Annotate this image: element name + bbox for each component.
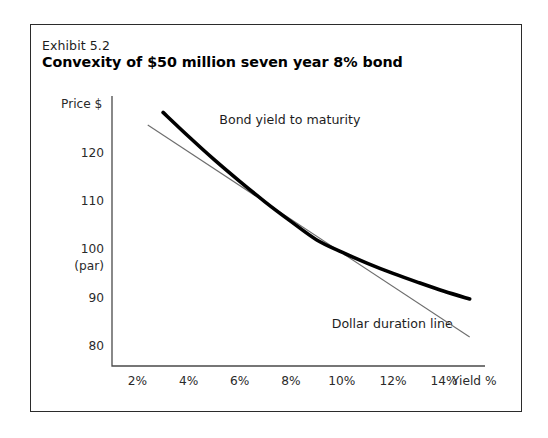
exhibit-figure: Exhibit 5.2 Convexity of $50 million sev… [0,0,548,438]
bond-yield-curve [163,112,470,299]
dollar-duration-line [148,125,470,337]
plot-area [0,0,548,438]
chart-axes [112,96,485,366]
